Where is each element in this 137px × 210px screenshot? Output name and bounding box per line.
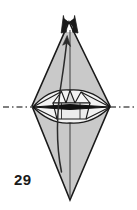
step-number-label: 29 [14, 172, 31, 187]
origami-step-diagram: 29 [0, 0, 137, 210]
